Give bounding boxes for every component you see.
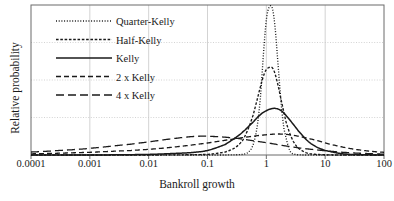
plot-area xyxy=(0,0,394,201)
x-axis-tick-label: 0.0001 xyxy=(17,158,46,169)
legend-label-4-x-kelly: 4 x Kelly xyxy=(116,90,155,101)
x-axis-tick-label: 1 xyxy=(264,158,269,169)
x-axis-title: Bankroll growth xyxy=(0,178,394,190)
x-axis-tick-label: 100 xyxy=(376,158,392,169)
x-axis-tick-label: 10 xyxy=(320,158,331,169)
x-axis-tick-label: 0.1 xyxy=(201,158,214,169)
y-axis-title: Relative probability xyxy=(9,18,21,158)
x-axis-tick-label: 0.001 xyxy=(78,158,102,169)
legend-label-half-kelly: Half-Kelly xyxy=(116,34,161,45)
chart-figure: Bankroll growth Relative probability 0.0… xyxy=(0,0,394,201)
legend-label-quarter-kelly: Quarter-Kelly xyxy=(116,16,175,27)
x-axis-tick-label: 0.01 xyxy=(140,158,158,169)
legend-label-2-x-kelly: 2 x Kelly xyxy=(116,71,155,82)
legend-label-kelly: Kelly xyxy=(116,53,139,64)
